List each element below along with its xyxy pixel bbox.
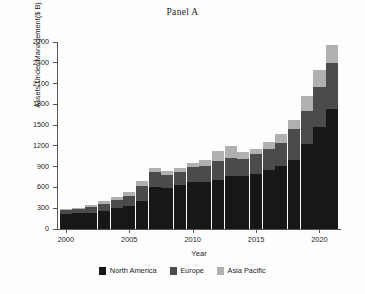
x-tick-label: 2015	[240, 235, 272, 244]
bar-segment-north-america	[98, 211, 110, 229]
bar-segment-europe	[212, 161, 224, 180]
chart-figure: Panel A Assets Under Management($ B) 030…	[0, 0, 365, 294]
x-tick-label: 2020	[303, 235, 335, 244]
bar-segment-north-america	[263, 170, 275, 229]
bar-segment-europe	[98, 204, 110, 211]
x-tick-label: 2010	[177, 235, 209, 244]
bar-2003	[98, 201, 110, 229]
y-tick: 0	[0, 224, 57, 234]
bar-segment-north-america	[199, 182, 211, 229]
y-tick-label: 2100	[33, 79, 49, 89]
y-tick: 2400	[0, 58, 57, 68]
bar-2011	[199, 160, 211, 229]
bar-2006	[136, 181, 148, 229]
bar-segment-north-america	[111, 208, 123, 229]
bar-segment-north-america	[161, 188, 173, 229]
bar-segment-asia-pacific	[111, 197, 123, 200]
bar-segment-north-america	[225, 176, 237, 229]
bar-segment-asia-pacific	[212, 151, 224, 161]
bar-2018	[288, 120, 300, 229]
bar-2001	[72, 208, 84, 229]
bar-segment-europe	[85, 207, 97, 213]
x-tick-mark	[193, 229, 194, 233]
legend-swatch-icon	[99, 267, 106, 275]
chart-legend: North AmericaEuropeAsia Pacific	[0, 266, 365, 275]
bar-segment-north-america	[313, 127, 325, 230]
bar-segment-asia-pacific	[288, 120, 300, 129]
bar-segment-north-america	[174, 185, 186, 229]
bar-segment-north-america	[275, 166, 287, 229]
bar-segment-europe	[225, 158, 237, 176]
y-tick-label: 1200	[33, 141, 49, 151]
bar-segment-asia-pacific	[326, 45, 338, 63]
bar-2002	[85, 205, 97, 229]
bar-segment-europe	[187, 167, 199, 182]
bar-2015	[250, 149, 262, 229]
bar-2005	[123, 192, 135, 229]
y-tick: 1200	[0, 141, 57, 151]
bar-segment-europe	[288, 129, 300, 160]
bar-segment-north-america	[187, 182, 199, 229]
x-tick-mark	[129, 229, 130, 233]
bar-segment-europe	[111, 200, 123, 208]
bar-segment-asia-pacific	[237, 152, 249, 158]
bar-segment-europe	[60, 210, 72, 214]
legend-label: Europe	[180, 266, 204, 275]
bar-segment-europe	[263, 149, 275, 170]
legend-item-north-america[interactable]: North America	[99, 266, 156, 275]
bar-segment-asia-pacific	[123, 192, 135, 196]
bar-segment-asia-pacific	[313, 70, 325, 87]
x-axis-label: Year	[57, 249, 341, 258]
bar-2014	[237, 152, 249, 229]
legend-label: Asia Pacific	[227, 266, 265, 275]
x-tick-mark	[256, 229, 257, 233]
page-title: Panel A	[0, 7, 365, 17]
bar-2004	[111, 197, 123, 229]
legend-swatch-icon	[170, 267, 177, 275]
bar-segment-europe	[174, 172, 186, 186]
legend-item-europe[interactable]: Europe	[170, 266, 204, 275]
y-tick: 1800	[0, 99, 57, 109]
bar-segment-north-america	[326, 109, 338, 229]
bar-segment-asia-pacific	[250, 149, 262, 154]
y-tick-label: 0	[45, 224, 49, 234]
bar-segment-europe	[301, 111, 313, 144]
bar-segment-north-america	[123, 206, 135, 229]
y-tick: 1500	[0, 120, 57, 130]
legend-item-asia-pacific[interactable]: Asia Pacific	[217, 266, 266, 275]
bar-segment-north-america	[250, 174, 262, 229]
bar-segment-north-america	[301, 144, 313, 229]
bar-segment-asia-pacific	[199, 160, 211, 166]
bar-segment-north-america	[85, 213, 97, 229]
bar-2012	[212, 151, 224, 229]
bar-2007	[149, 168, 161, 229]
y-tick-label: 600	[37, 182, 49, 192]
bar-segment-asia-pacific	[263, 142, 275, 149]
bar-segment-asia-pacific	[98, 201, 110, 203]
bar-2008	[161, 170, 173, 229]
bar-segment-europe	[149, 172, 161, 188]
bar-2016	[263, 142, 275, 229]
bar-segment-europe	[161, 175, 173, 189]
bar-segment-europe	[313, 87, 325, 127]
bar-segment-europe	[250, 154, 262, 174]
bar-2000	[60, 209, 72, 229]
bar-2013	[225, 146, 237, 229]
y-tick: 300	[0, 203, 57, 213]
y-tick-label: 2400	[33, 58, 49, 68]
bar-2010	[187, 163, 199, 229]
bar-segment-north-america	[212, 180, 224, 229]
bar-segment-asia-pacific	[72, 208, 84, 209]
bar-segment-north-america	[72, 213, 84, 229]
bar-2009	[174, 168, 186, 229]
bar-segment-asia-pacific	[161, 171, 173, 175]
x-tick-mark	[319, 229, 320, 233]
y-tick-label: 2700	[33, 37, 49, 47]
bar-segment-north-america	[237, 176, 249, 229]
y-tick-label: 300	[37, 203, 49, 213]
y-tick-label: 1800	[33, 99, 49, 109]
y-tick: 600	[0, 182, 57, 192]
bar-segment-asia-pacific	[174, 168, 186, 172]
y-tick: 2700	[0, 37, 57, 47]
plot-area	[57, 42, 341, 229]
